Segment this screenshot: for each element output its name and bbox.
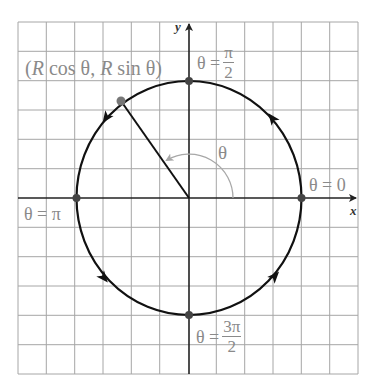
fraction: 3π 2 [222,318,241,355]
theta-pi-half-label: θ = π 2 [197,44,234,81]
fraction-denominator: 2 [228,337,237,355]
fraction: π 2 [223,44,234,81]
arrow-icon [267,268,282,284]
point-theta-3pi-half [185,311,193,319]
theta-pi-label: θ = π [24,205,61,223]
point-r-cos-sin [117,97,126,106]
arrow-icon [96,270,111,286]
fraction-numerator: 3π [222,318,241,337]
angle-theta-label: θ [218,143,227,162]
theta-3pi-half-prefix: θ = [196,328,219,346]
theta-pi-half-prefix: θ = [197,54,220,72]
theta-3pi-half-label: θ = 3π 2 [196,318,241,355]
point-theta-0 [298,194,306,202]
fraction-numerator: π [223,44,234,63]
x-axis-label: x [350,204,357,217]
fraction-denominator: 2 [224,63,233,81]
point-theta-pi [73,194,81,202]
theta-zero-label: θ = 0 [309,176,346,194]
point-theta-pi-half [185,77,193,85]
point-coordinate-label: (R cos θ, R sin θ) [25,58,162,78]
y-axis-label: y [175,20,181,33]
circle-diagram: y x (R cos θ, R sin θ) θ θ = 0 θ = π θ =… [0,0,374,391]
